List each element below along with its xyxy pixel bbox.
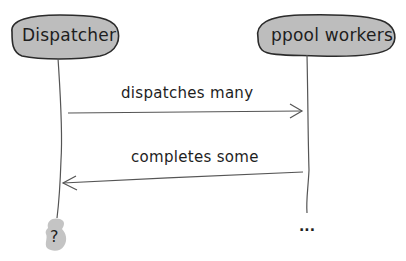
message-arrow-completes bbox=[63, 172, 303, 183]
message-label-dispatches: dispatches many bbox=[121, 84, 253, 102]
dispatcher-end-marker: ? bbox=[50, 227, 59, 246]
message-arrow-dispatches bbox=[68, 111, 302, 113]
message-label-completes: completes some bbox=[131, 148, 259, 166]
ppool-end-marker: ... bbox=[299, 218, 315, 234]
dispatcher-lifeline bbox=[57, 58, 62, 218]
ppool-actor-label: ppool workers bbox=[271, 25, 393, 45]
ppool-lifeline bbox=[307, 55, 309, 213]
dispatcher-actor-label: Dispatcher bbox=[22, 25, 116, 45]
